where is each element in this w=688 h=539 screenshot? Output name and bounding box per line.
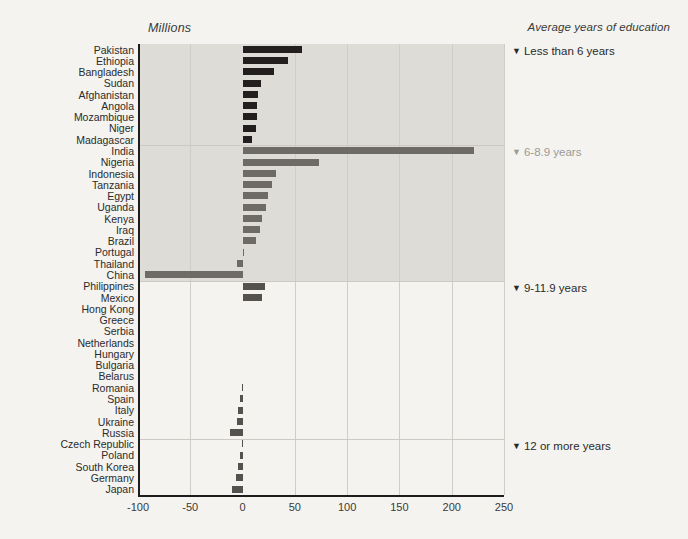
gridline-x-100: [347, 44, 348, 495]
gridline-x-50: [295, 44, 296, 495]
bar-spain: [240, 395, 242, 402]
category-label-mexico: Mexico: [2, 293, 134, 304]
bar-portugal: [243, 249, 244, 256]
bar-czech-republic: [242, 440, 243, 447]
bar-italy: [238, 407, 242, 414]
x-tick-label--100: -100: [127, 501, 149, 513]
x-tick-label-150: 150: [390, 501, 408, 513]
category-label-nigeria: Nigeria: [2, 157, 134, 168]
bar-afghanistan: [243, 91, 259, 98]
group-annotation-2: ▼9-11.9 years: [512, 282, 587, 294]
category-label-japan: Japan: [2, 484, 134, 495]
group-annotation-0: ▼Less than 6 years: [512, 45, 615, 57]
gridline-x-200: [452, 44, 453, 495]
bar-germany: [236, 474, 242, 481]
category-axis-labels: PakistanEthiopiaBangladeshSudanAfghanist…: [0, 44, 134, 495]
category-label-italy: Italy: [2, 405, 134, 416]
bar-niger: [243, 125, 257, 132]
category-label-ukraine: Ukraine: [2, 417, 134, 428]
bar-ukraine: [237, 418, 242, 425]
bar-romania: [242, 384, 243, 391]
category-label-philippines: Philippines: [2, 281, 134, 292]
triangle-down-icon: ▼: [512, 46, 521, 56]
bar-kenya: [243, 215, 263, 222]
group-annotation-label: 6-8.9 years: [524, 146, 582, 158]
triangle-down-icon: ▼: [512, 441, 521, 451]
zero-axis-line: [138, 44, 140, 496]
bar-russia: [230, 429, 243, 436]
gridline-x-250: [504, 44, 505, 495]
bar-ethiopia: [243, 57, 288, 64]
triangle-down-icon: ▼: [512, 147, 521, 157]
bar-bangladesh: [243, 68, 274, 75]
bar-philippines: [243, 283, 265, 290]
category-label-serbia: Serbia: [2, 326, 134, 337]
bar-uganda: [243, 204, 266, 211]
bar-pakistan: [243, 46, 303, 53]
group-annotation-label: 9-11.9 years: [524, 282, 587, 294]
category-label-poland: Poland: [2, 450, 134, 461]
group-band-1: [138, 44, 504, 145]
bar-thailand: [237, 260, 242, 267]
category-label-kenya: Kenya: [2, 214, 134, 225]
category-label-portugal: Portugal: [2, 247, 134, 258]
bar-nigeria: [243, 159, 319, 166]
bar-brazil: [243, 237, 257, 244]
bar-mexico: [243, 294, 263, 301]
gridline-x--50: [190, 44, 191, 495]
chart-right-title: Average years of education: [528, 21, 670, 33]
group-band-2: [138, 145, 504, 280]
category-label-netherlands: Netherlands: [2, 338, 134, 349]
category-label-indonesia: Indonesia: [2, 169, 134, 180]
bar-indonesia: [243, 170, 276, 177]
category-label-niger: Niger: [2, 123, 134, 134]
category-label-pakistan: Pakistan: [2, 45, 134, 56]
group-annotation-3: ▼12 or more years: [512, 440, 611, 452]
group-divider: [138, 281, 504, 282]
bar-sudan: [243, 80, 262, 87]
bar-egypt: [243, 192, 268, 199]
gridline-x-150: [399, 44, 400, 495]
bar-japan: [232, 486, 242, 493]
x-tick-label-250: 250: [495, 501, 513, 513]
category-label-sudan: Sudan: [2, 78, 134, 89]
bar-madagascar: [243, 136, 252, 143]
x-tick-label-50: 50: [289, 501, 301, 513]
bar-angola: [243, 102, 258, 109]
x-tick-label-100: 100: [338, 501, 356, 513]
x-tick-label-200: 200: [443, 501, 461, 513]
x-tick-label-0: 0: [240, 501, 246, 513]
bar-iraq: [243, 226, 261, 233]
category-label-uganda: Uganda: [2, 202, 134, 213]
group-annotation-label: Less than 6 years: [524, 45, 615, 57]
group-annotation-label: 12 or more years: [524, 440, 611, 452]
bar-china: [145, 271, 242, 278]
chart-root: Millions Average years of education Paki…: [0, 0, 688, 539]
group-annotation-1: ▼6-8.9 years: [512, 146, 581, 158]
category-label-afghanistan: Afghanistan: [2, 90, 134, 101]
plot-area: [138, 44, 504, 495]
triangle-down-icon: ▼: [512, 283, 521, 293]
bar-mozambique: [243, 113, 258, 120]
category-label-belarus: Belarus: [2, 371, 134, 382]
group-divider: [138, 439, 504, 440]
x-axis-line: [138, 495, 504, 497]
bar-poland: [240, 452, 242, 459]
bar-india: [243, 147, 474, 154]
bar-south-korea: [238, 463, 242, 470]
chart-left-title: Millions: [148, 21, 191, 35]
x-tick-label--50: -50: [182, 501, 198, 513]
bar-tanzania: [243, 181, 272, 188]
